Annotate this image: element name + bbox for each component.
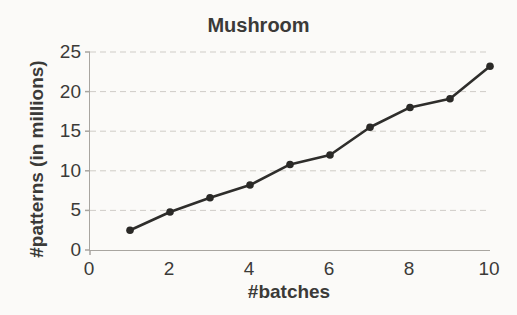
data-point-marker [246, 181, 254, 189]
chart-title: Mushroom [0, 14, 517, 37]
x-tick-label: 0 [84, 258, 95, 280]
y-tick-label: 25 [37, 41, 81, 63]
data-point-marker [126, 226, 134, 234]
x-tick-label: 8 [404, 258, 415, 280]
y-tick-label: 15 [37, 120, 81, 142]
x-tick-label: 10 [478, 258, 499, 280]
line-chart-svg [90, 52, 490, 250]
data-point-marker [166, 208, 174, 216]
y-tick-label: 5 [37, 199, 81, 221]
plot-area [89, 52, 490, 251]
x-tick-label: 6 [324, 258, 335, 280]
x-tick-label: 4 [244, 258, 255, 280]
data-point-marker [286, 161, 294, 169]
chart-figure: Mushroom #patterns (in millions) 0510152… [0, 0, 517, 315]
y-tick-label: 20 [37, 81, 81, 103]
data-point-marker [486, 62, 494, 70]
data-point-marker [406, 104, 414, 112]
series-line [130, 66, 490, 230]
data-point-marker [366, 123, 374, 131]
data-point-marker [326, 151, 334, 159]
data-point-marker [206, 194, 214, 202]
x-tick-label: 2 [164, 258, 175, 280]
data-point-marker [446, 95, 454, 103]
y-tick-label: 0 [37, 239, 81, 261]
y-tick-label: 10 [37, 160, 81, 182]
x-axis-label: #batches [89, 281, 489, 303]
